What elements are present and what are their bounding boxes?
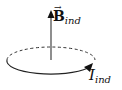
vector-arrow-icon: → <box>54 3 62 12</box>
induced-current-label: Iind <box>89 68 111 85</box>
induced-field-label: →Bind <box>53 9 81 26</box>
current-loop-front-solid <box>7 60 88 74</box>
